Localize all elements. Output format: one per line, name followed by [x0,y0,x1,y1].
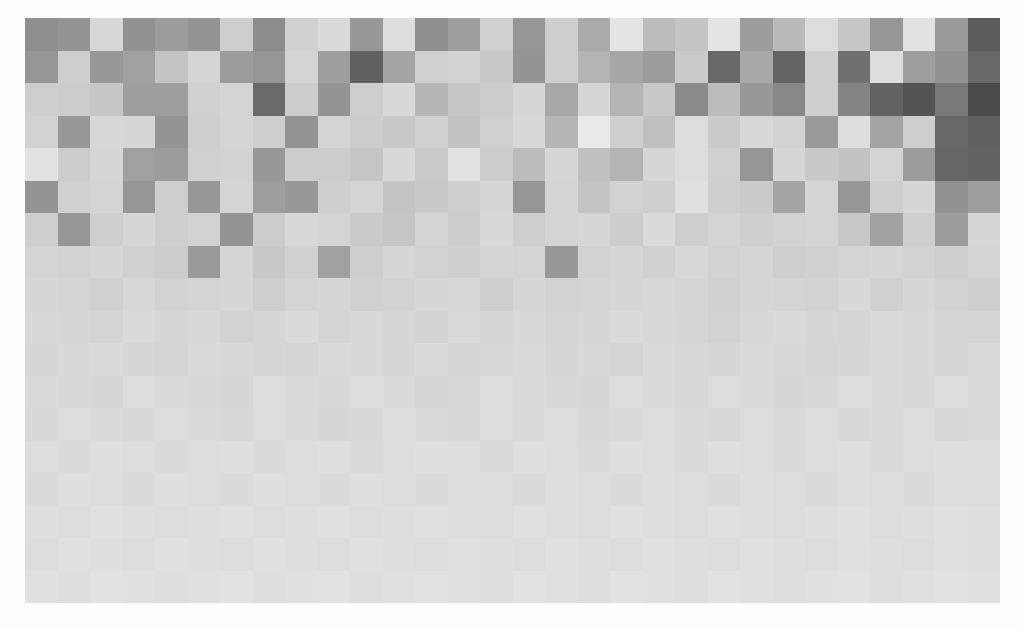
heatmap-cell [708,311,741,344]
heatmap-cell [643,408,676,441]
heatmap-cell [318,441,351,474]
heatmap-cell [838,311,871,344]
heatmap-cell [610,473,643,506]
heatmap-cell [805,213,838,246]
heatmap-cell [903,116,936,149]
heatmap-cell [480,376,513,409]
heatmap-cell [643,506,676,539]
heatmap-cell [545,408,578,441]
heatmap-cell [903,148,936,181]
heatmap-cell [123,213,156,246]
heatmap-cell [708,83,741,116]
heatmap-cell [740,18,773,51]
heatmap-cell [870,51,903,84]
heatmap-cell [285,181,318,214]
heatmap-cell [480,278,513,311]
heatmap-cell [220,246,253,279]
heatmap-cell [155,246,188,279]
heatmap-cell [513,376,546,409]
heatmap-cell [415,278,448,311]
heatmap-cell [935,51,968,84]
heatmap-cell [220,83,253,116]
heatmap-cell [838,51,871,84]
heatmap-cell [220,148,253,181]
heatmap-cell [188,148,221,181]
heatmap-cell [90,83,123,116]
heatmap-cell [740,571,773,604]
heatmap-cell [25,278,58,311]
heatmap-cell [253,311,286,344]
heatmap-cell [870,311,903,344]
heatmap-cell [188,506,221,539]
heatmap-cell [545,213,578,246]
heatmap-cell [643,181,676,214]
heatmap-cell [58,571,91,604]
heatmap-cell [448,246,481,279]
heatmap-cell [318,116,351,149]
heatmap-cell [25,571,58,604]
heatmap-cell [220,441,253,474]
heatmap-cell [253,116,286,149]
heatmap-cell [935,311,968,344]
heatmap-cell [578,538,611,571]
heatmap-cell [480,213,513,246]
heatmap-cell [708,506,741,539]
heatmap-cell [805,473,838,506]
heatmap-cell [415,343,448,376]
heatmap-cell [285,18,318,51]
heatmap-cell [935,571,968,604]
heatmap-cell [90,506,123,539]
heatmap-cell [610,181,643,214]
heatmap-cell [838,538,871,571]
heatmap-cell [805,538,838,571]
heatmap-cell [805,278,838,311]
heatmap-cell [480,116,513,149]
heatmap-cell [513,506,546,539]
heatmap-cell [155,278,188,311]
heatmap-cell [383,571,416,604]
heatmap-cell [448,213,481,246]
heatmap-cell [480,181,513,214]
heatmap-cell [968,18,1001,51]
heatmap-cell [545,51,578,84]
heatmap-cell [545,148,578,181]
heatmap-cell [480,538,513,571]
heatmap-cell [578,51,611,84]
heatmap-cell [870,473,903,506]
heatmap-cell [643,246,676,279]
heatmap-cell [123,83,156,116]
heatmap-cell [285,506,318,539]
heatmap-cell [253,408,286,441]
heatmap-cell [740,51,773,84]
heatmap-cell [903,278,936,311]
heatmap-cell [318,538,351,571]
heatmap-cell [838,473,871,506]
heatmap-cell [253,506,286,539]
heatmap-cell [935,246,968,279]
heatmap-cell [870,441,903,474]
heatmap-cell [90,343,123,376]
heatmap-cell [448,343,481,376]
heatmap-cell [58,441,91,474]
heatmap-cell [415,311,448,344]
heatmap-cell [383,538,416,571]
heatmap-cell [578,571,611,604]
heatmap-cell [935,83,968,116]
heatmap-cell [545,376,578,409]
heatmap-cell [903,246,936,279]
heatmap-cell [675,311,708,344]
heatmap-cell [253,18,286,51]
heatmap-cell [155,441,188,474]
heatmap-cell [578,311,611,344]
heatmap-cell [90,311,123,344]
heatmap-cell [610,408,643,441]
heatmap-cell [805,51,838,84]
heatmap-cell [123,408,156,441]
heatmap-cell [870,181,903,214]
heatmap-cell [123,473,156,506]
heatmap-cell [123,148,156,181]
heatmap-cell [123,571,156,604]
heatmap-cell [708,376,741,409]
heatmap-cell [838,18,871,51]
heatmap-cell [448,376,481,409]
